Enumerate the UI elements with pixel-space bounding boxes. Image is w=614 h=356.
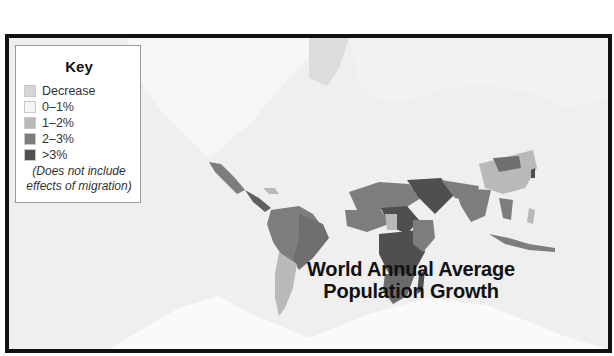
antarctica — [109, 296, 608, 349]
south-asia — [455, 188, 491, 222]
caribbean — [263, 188, 279, 194]
map-frame: Key Decrease 0–1% 1–2% 2–3% >3% (Does no… — [5, 34, 612, 353]
swatch-0-1 — [24, 101, 36, 113]
legend-title: Key — [16, 58, 142, 75]
legend-item-0-1: 0–1% — [24, 100, 74, 114]
legend-label: Decrease — [42, 84, 96, 98]
legend-note: (Does not include effects of migration) — [16, 164, 142, 194]
legend-label: 1–2% — [42, 116, 74, 130]
swatch-1-2 — [24, 117, 36, 129]
page-caption — [0, 0, 614, 8]
legend-label: 2–3% — [42, 132, 74, 146]
map-legend: Key Decrease 0–1% 1–2% 2–3% >3% (Does no… — [15, 45, 141, 203]
legend-note-line1: (Does not include — [16, 164, 142, 179]
legend-item-1-2: 1–2% — [24, 116, 74, 130]
north-america — [127, 38, 309, 158]
legend-label: 0–1% — [42, 100, 74, 114]
chad-light — [385, 214, 397, 230]
russia-europe — [349, 38, 608, 108]
philippines — [527, 208, 535, 224]
legend-item-over-3: >3% — [24, 148, 67, 162]
map-title-line2: Population Growth — [305, 280, 517, 302]
indonesia — [489, 234, 555, 252]
legend-label: >3% — [42, 148, 67, 162]
swatch-decrease — [24, 85, 36, 97]
north-africa — [349, 182, 421, 210]
legend-item-2-3: 2–3% — [24, 132, 74, 146]
greenland — [309, 38, 349, 86]
legend-item-decrease: Decrease — [24, 84, 96, 98]
mexico — [209, 162, 245, 194]
swatch-over-3 — [24, 149, 36, 161]
southeast-asia — [499, 198, 513, 220]
swatch-2-3 — [24, 133, 36, 145]
china — [479, 150, 537, 194]
legend-note-line2: effects of migration) — [16, 179, 142, 194]
map-title: World Annual Average Population Growth — [305, 258, 517, 302]
map-title-line1: World Annual Average — [305, 258, 517, 280]
sahel — [345, 210, 389, 232]
central-america — [245, 190, 271, 212]
